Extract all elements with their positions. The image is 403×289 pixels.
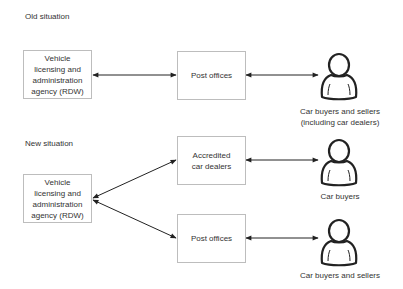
node-new-accredited-dealers: Accredited car dealers <box>177 136 246 185</box>
person-icon-buyers <box>322 140 356 185</box>
node-new-agency: Vehicle licensing and administration age… <box>23 174 92 223</box>
node-old-agency: Vehicle licensing and administration age… <box>23 50 92 99</box>
label-old-actor: Car buyers and sellers (including car de… <box>280 106 400 128</box>
person-icon-old <box>322 54 356 99</box>
node-new-post-offices: Post offices <box>177 214 246 263</box>
person-icon-buyers-sellers <box>322 220 356 265</box>
heading-old-situation: Old situation <box>25 12 69 21</box>
arrow-new-agency-dealers <box>93 160 176 198</box>
label-new-buyers: Car buyers <box>280 191 400 202</box>
arrow-new-agency-post <box>93 200 176 238</box>
label-new-buyers-sellers: Car buyers and sellers <box>280 270 400 281</box>
heading-new-situation: New situation <box>25 139 73 148</box>
node-old-post-offices: Post offices <box>177 51 246 100</box>
